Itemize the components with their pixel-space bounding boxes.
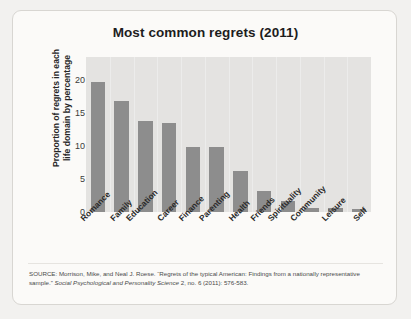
plot-region — [86, 57, 371, 212]
source-line2-italic: Social Psychological and Personality Sci… — [54, 279, 179, 286]
x-label-slot: Romance — [86, 213, 110, 261]
x-label-slot: Community — [300, 213, 324, 261]
y-axis-tick-20: 20 — [59, 75, 85, 85]
x-label-slot: Parenting — [205, 213, 229, 261]
y-axis-tick-10: 10 — [59, 141, 85, 151]
bar-series — [86, 57, 371, 212]
bar-slot — [347, 57, 371, 212]
y-axis-ticks: 05101520 — [57, 47, 85, 212]
y-axis-tick-5: 5 — [59, 174, 85, 184]
source-line2-suffix: 2, no. 6 (2011): 576-583. — [179, 279, 248, 286]
x-label-slot: Self — [347, 213, 371, 261]
source-line1: SOURCE: Morrison, Mike, and Neal J. Roes… — [29, 270, 360, 277]
bar-slot — [181, 57, 205, 212]
source-caption: SOURCE: Morrison, Mike, and Neal J. Roes… — [29, 269, 384, 287]
chart-area: Proportion of regrets in each life domai… — [31, 47, 381, 262]
bar-slot — [229, 57, 253, 212]
source-line2-prefix: sample.” — [29, 279, 54, 286]
source-divider — [28, 263, 383, 264]
y-axis-tick-15: 15 — [59, 108, 85, 118]
x-axis-labels: RomanceFamilyEducationCareerFinanceParen… — [86, 213, 371, 261]
x-label-slot: Career — [157, 213, 181, 261]
figure-card: Most common regrets (2011) Proportion of… — [12, 10, 397, 305]
bar-slot — [324, 57, 348, 212]
x-label-slot: Education — [134, 213, 158, 261]
bar-slot — [252, 57, 276, 212]
x-label-slot: Health — [229, 213, 253, 261]
x-label-slot: Leisure — [324, 213, 348, 261]
bar-slot — [110, 57, 134, 212]
bar-slot — [157, 57, 181, 212]
bar-family[interactable] — [114, 101, 129, 212]
bar-slot — [86, 57, 110, 212]
